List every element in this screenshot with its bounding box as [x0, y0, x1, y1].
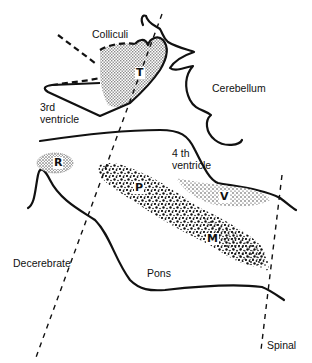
decerebrate-label: Decerebrate: [13, 257, 71, 269]
brainstem-diagram: [0, 0, 312, 363]
spinal-label: Spinal: [267, 339, 296, 351]
fourth-ventricle-label-line2: ventricle: [172, 159, 211, 171]
region-letter-v: V: [219, 191, 230, 203]
colliculi-label: Colliculi: [92, 28, 128, 40]
region-letter-m: M: [206, 233, 219, 245]
region-letter-t: T: [135, 67, 145, 79]
pons-label: Pons: [147, 267, 171, 279]
tectum-region: [100, 38, 167, 108]
upper-dashed-line: [58, 35, 95, 63]
fourth-ventricle-label-line1: 4 th: [172, 147, 190, 159]
region-letter-p: P: [134, 182, 144, 194]
region-letter-r: R: [53, 157, 63, 169]
cerebellum-label: Cerebellum: [212, 82, 266, 94]
cerebellum-outline: [142, 15, 242, 144]
third-ventricle-label-line2: ventricle: [40, 113, 79, 125]
third-ventricle-label-line1: 3rd: [40, 101, 55, 113]
